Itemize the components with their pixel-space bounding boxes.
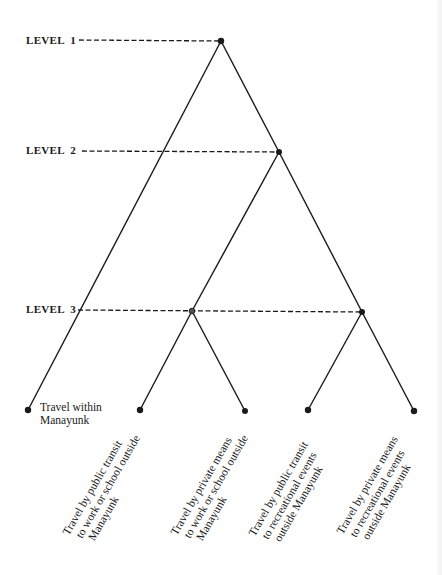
branch-root-within [28, 41, 221, 410]
leaf-node-within [25, 407, 31, 413]
leaf-label-line: Travel within [40, 401, 102, 414]
leaf-node-private-rec [411, 408, 417, 414]
branch-level2-level3left [192, 152, 279, 311]
level2-node [276, 149, 282, 155]
branch-l3left-public-work [140, 311, 192, 410]
level-3-label: LEVEL 3 [26, 304, 76, 315]
leaf-node-public-work [137, 407, 143, 413]
branch-l3right-public-rec [308, 312, 362, 410]
leaf-label-line: Manayunk [40, 414, 102, 427]
branch-l3right-private-rec [362, 312, 414, 411]
leaf-node-private-work [242, 408, 248, 414]
level-3-guide [78, 310, 362, 312]
branch-level2-level3right [279, 152, 362, 312]
level3-right-node [359, 309, 365, 315]
level3-left-node [189, 308, 195, 314]
level-1-label: LEVEL 1 [26, 35, 76, 46]
leaf-label-within: Travel within Manayunk [40, 401, 102, 427]
level-2-guide [82, 151, 279, 152]
branch-root-level2 [221, 41, 279, 152]
leaf-node-public-rec [305, 407, 311, 413]
root-node [218, 38, 224, 44]
level-2-label: LEVEL 2 [26, 145, 76, 156]
branch-l3left-private-work [192, 311, 245, 411]
level-1-guide [79, 40, 221, 41]
